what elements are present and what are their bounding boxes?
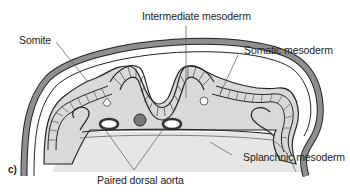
panel-label: c) [8,164,17,175]
label-paired-dorsal-aorta: Paired dorsal aorta [97,175,184,186]
label-intermediate-mesoderm: Intermediate mesoderm [142,11,251,22]
embryo-cross-section-diagram [0,0,350,194]
label-somatic-mesoderm: Somatic mesoderm [244,45,333,56]
label-somite: Somite [19,35,51,46]
notochord [134,114,146,126]
label-splanchnic-mesoderm: Splanchnic mesoderm [243,152,345,163]
right-dorsal-aorta [163,119,181,129]
left-dorsal-aorta [100,119,118,129]
right-somite-cavity [200,97,208,105]
